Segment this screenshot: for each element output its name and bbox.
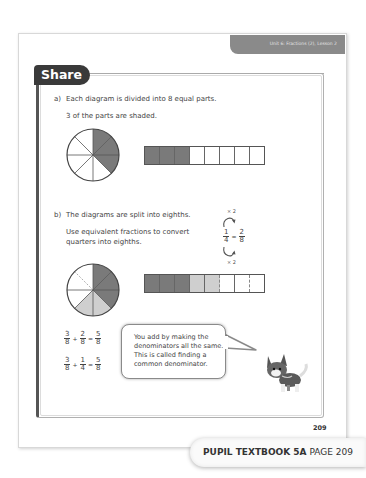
footer-text: PUPIL TEXTBOOK 5A PAGE 209 (203, 447, 353, 457)
bar-cell (220, 147, 235, 164)
footer-page: PAGE 209 (309, 447, 353, 457)
speech-bubble: You add by making the denominators all t… (121, 324, 226, 379)
bar-cell (205, 147, 220, 164)
section-divider (88, 73, 324, 74)
part-b-text-3: quarters into eighths. (66, 238, 142, 246)
fraction: 14 (223, 229, 229, 244)
bar-cell (250, 147, 264, 164)
bar-cell (160, 275, 175, 292)
bar-cell (145, 147, 160, 164)
part-b-fraction-bar (144, 274, 265, 293)
section-title-tab: Share (34, 65, 90, 85)
part-b-text-1: The diagrams are split into eighths. (66, 211, 191, 219)
fraction: 38 (64, 331, 70, 346)
bar-cell (235, 275, 250, 292)
bar-cell (250, 275, 264, 292)
equation-2: 38 + 14 = 58 (63, 357, 102, 372)
bar-cell (205, 275, 220, 292)
equation-1: 38 + 28 = 58 (63, 331, 102, 346)
fraction: 58 (95, 357, 101, 372)
part-a-text-2: 3 of the parts are shaded. (66, 112, 157, 120)
bar-cell (235, 147, 250, 164)
part-a-text-1: Each diagram is divided into 8 equal par… (66, 95, 216, 103)
fraction: 58 (95, 331, 101, 346)
part-b-text-2: Use equivalent fractions to convert (66, 228, 189, 236)
bar-cell (160, 147, 175, 164)
part-b-fraction-circle (65, 262, 121, 318)
part-a-fraction-circle (65, 127, 121, 183)
page-number: 209 (313, 424, 327, 432)
part-b-label: b) (54, 211, 61, 219)
part-a-fraction-bar (144, 146, 265, 165)
multiply-bottom-label: × 2 (227, 259, 236, 265)
arrow-curve-bottom-icon (221, 246, 237, 260)
equivalent-fraction: 14 = 28 (222, 229, 246, 244)
part-a-label: a) (54, 95, 61, 103)
speech-bubble-tail (222, 332, 262, 362)
unit-header-band: Unit 6: Fractions (2), Lesson 2 (230, 35, 345, 54)
fraction: 38 (64, 357, 70, 372)
bar-cell (175, 275, 190, 292)
footer-book-title: PUPIL TEXTBOOK 5A (203, 447, 307, 457)
bar-cell (190, 275, 205, 292)
bar-cell (220, 275, 235, 292)
bar-cell (175, 147, 190, 164)
unit-label: Unit 6: Fractions (2), Lesson 2 (270, 41, 337, 46)
bar-cell (145, 275, 160, 292)
bubble-tail-joint (223, 336, 228, 349)
arrow-curve-top-icon (221, 214, 237, 228)
bar-cell (190, 147, 205, 164)
dog-character-icon (262, 352, 312, 394)
fraction: 28 (80, 331, 86, 346)
fraction: 14 (80, 357, 86, 372)
fraction: 28 (239, 229, 245, 244)
